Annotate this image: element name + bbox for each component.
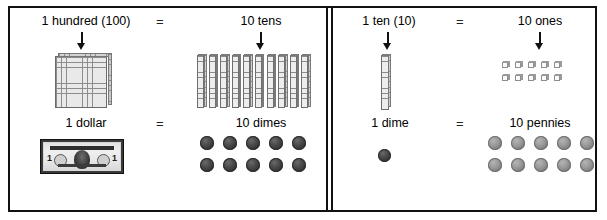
label-one-dollar: 1 dollar xyxy=(26,116,146,130)
unit-cube xyxy=(528,62,534,68)
penny-coin xyxy=(557,136,571,150)
row-dollar-equals-ten-dimes: 1 dollar = 10 dimes 1 1 xyxy=(10,109,322,212)
penny-coin xyxy=(534,158,548,172)
ten-rod xyxy=(290,55,297,108)
row-dime-equals-ten-pennies: 1 dime = 10 pennies xyxy=(340,109,595,212)
equals-sign-hundred-tens: = xyxy=(156,15,164,29)
unit-cube xyxy=(554,75,560,81)
ten-rod xyxy=(278,55,285,108)
ten-rod xyxy=(381,55,389,110)
penny-coin xyxy=(580,158,594,172)
flat-top-edge xyxy=(58,53,110,57)
label-one-hundred: 1 hundred (100) xyxy=(16,14,156,28)
ten-rod xyxy=(209,55,216,108)
arrow-head xyxy=(77,43,85,50)
penny-coin xyxy=(511,158,525,172)
unit-cube xyxy=(541,75,547,81)
ten-rod xyxy=(232,55,239,108)
dollar-bill: 1 1 xyxy=(40,139,124,174)
cube-row xyxy=(502,75,560,81)
coin-row xyxy=(488,136,594,150)
unit-cubes-group xyxy=(502,62,560,88)
single-dime-group xyxy=(378,149,391,162)
unit-cube xyxy=(502,62,508,68)
equals-sign-dime-pennies: = xyxy=(456,117,464,131)
penny-coin xyxy=(534,136,548,150)
ten-rod xyxy=(220,55,227,108)
ten-rod xyxy=(255,55,262,108)
dime-coin xyxy=(246,136,260,150)
ten-rods-group xyxy=(197,55,308,108)
dime-coin xyxy=(246,158,260,172)
coin-row xyxy=(200,136,306,150)
row-ten-equals-ten-ones: 1 ten (10) = 10 ones xyxy=(340,6,595,109)
penny-coin xyxy=(511,136,525,150)
penny-coins-group xyxy=(488,136,594,180)
ten-rod xyxy=(267,55,274,108)
dime-coin xyxy=(269,136,283,150)
divider-line-left xyxy=(326,6,328,212)
dime-coin xyxy=(223,136,237,150)
label-ten-ones: 10 ones xyxy=(490,14,590,28)
panel-left: 1 hundred (100) = 10 tens xyxy=(10,6,322,212)
hundred-flat-block xyxy=(55,56,107,108)
panel-divider xyxy=(326,6,333,212)
dime-coin xyxy=(200,158,214,172)
dime-coin xyxy=(292,136,306,150)
diagram-sheet: 1 hundred (100) = 10 tens xyxy=(0,0,607,220)
label-one-ten: 1 ten (10) xyxy=(340,14,438,28)
divider-line-right xyxy=(331,6,333,212)
unit-cube xyxy=(528,75,534,81)
unit-cube xyxy=(541,62,547,68)
dime-coin xyxy=(378,149,391,162)
panel-right: 1 ten (10) = 10 ones xyxy=(340,6,595,212)
row-hundred-equals-ten-tens: 1 hundred (100) = 10 tens xyxy=(10,6,322,109)
label-one-dime: 1 dime xyxy=(344,116,436,130)
equals-sign-dollar-dimes: = xyxy=(156,117,164,131)
unit-cube xyxy=(502,75,508,81)
label-ten-tens: 10 tens xyxy=(206,14,316,28)
label-ten-pennies: 10 pennies xyxy=(484,116,596,130)
dime-coin xyxy=(223,158,237,172)
equals-sign-ten-ones: = xyxy=(456,15,464,29)
bill-denomination-right: 1 xyxy=(112,153,117,163)
coin-row xyxy=(488,158,594,172)
penny-coin xyxy=(488,136,502,150)
ten-rod xyxy=(197,55,204,108)
dime-coin xyxy=(292,158,306,172)
cube-row xyxy=(502,62,560,68)
single-ten-rod-group xyxy=(381,55,389,110)
arrow-head xyxy=(383,43,391,50)
penny-coin xyxy=(580,136,594,150)
arrow-head xyxy=(256,43,264,50)
dime-coin xyxy=(200,136,214,150)
bill-denomination-left: 1 xyxy=(47,153,52,163)
label-ten-dimes: 10 dimes xyxy=(206,116,316,130)
dime-coin xyxy=(269,158,283,172)
coin-row xyxy=(200,158,306,172)
bill-inner: 1 1 xyxy=(43,142,121,171)
penny-coin xyxy=(488,158,502,172)
dime-coins-group xyxy=(200,136,306,180)
unit-cube xyxy=(515,62,521,68)
ten-rod xyxy=(301,55,308,108)
unit-cube xyxy=(515,75,521,81)
arrow-head xyxy=(535,43,543,50)
bill-bottom-band xyxy=(58,164,106,167)
ten-rod xyxy=(243,55,250,108)
penny-coin xyxy=(557,158,571,172)
flat-right-edge xyxy=(108,53,112,105)
unit-cube xyxy=(554,62,560,68)
